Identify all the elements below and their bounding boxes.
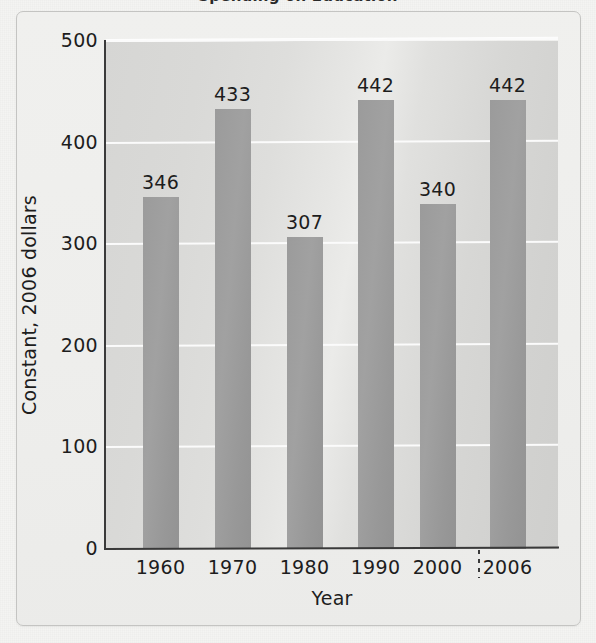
y-axis-line — [104, 40, 106, 550]
y-axis-tick-labels: 0100200300400500 — [0, 0, 98, 643]
bar — [143, 197, 179, 549]
bar-value-label: 340 — [398, 178, 478, 200]
y-tick-label: 400 — [10, 131, 98, 153]
y-axis-title: Constant, 2006 dollars — [18, 155, 40, 455]
bar — [358, 100, 394, 549]
x-axis-title: Year — [106, 587, 558, 609]
bar — [215, 109, 251, 549]
bar — [287, 237, 323, 549]
y-tick-label: 500 — [10, 29, 98, 51]
plot-area — [106, 41, 558, 549]
y-tick-label: 0 — [10, 537, 98, 559]
bar-value-label: 307 — [265, 211, 345, 233]
bar-value-label: 442 — [336, 74, 416, 96]
bar-value-label: 346 — [121, 171, 201, 193]
projection-separator-icon — [478, 550, 480, 578]
bar — [420, 204, 456, 549]
bar-value-label: 442 — [468, 74, 548, 96]
x-tick-label: 2006 — [463, 556, 553, 578]
bar — [490, 100, 526, 549]
bar-value-label: 433 — [193, 83, 273, 105]
gridline — [106, 38, 558, 42]
